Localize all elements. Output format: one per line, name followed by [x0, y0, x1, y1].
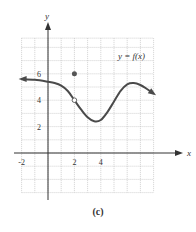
x-axis-label: x [186, 148, 191, 158]
curve-left-arrow-icon [19, 76, 27, 82]
x-tick-label: -2 [18, 158, 25, 167]
y-tick-label: 2 [37, 123, 41, 132]
figure-caption: (c) [0, 206, 196, 217]
y-tick-label: 4 [37, 96, 41, 105]
y-axis-label: y [44, 11, 49, 21]
function-graph: xy-224246y = f(x) [0, 0, 196, 232]
closed-point [72, 71, 77, 76]
x-tick-label: 2 [72, 158, 76, 167]
x-axis-arrow-icon [175, 150, 183, 156]
open-point [72, 98, 77, 103]
y-tick-label: 6 [37, 70, 41, 79]
function-label: y = f(x) [117, 51, 145, 61]
y-axis-arrow-icon [45, 22, 51, 30]
x-tick-label: 4 [99, 158, 103, 167]
